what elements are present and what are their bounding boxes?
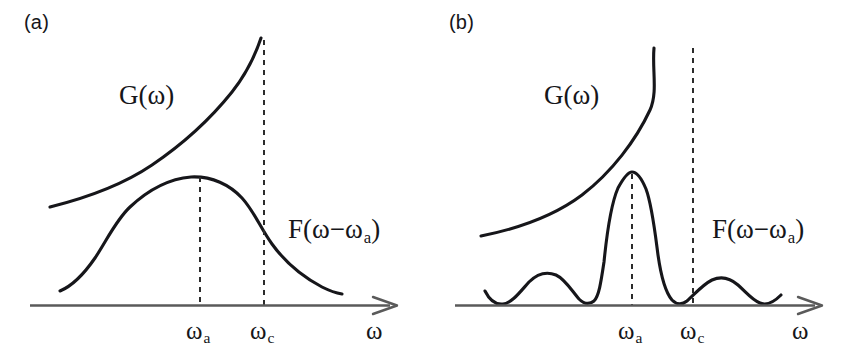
- panel-label-b: (b): [449, 12, 474, 32]
- tick-omega-subscript-a2: c: [266, 329, 274, 346]
- tick-omega-symbol-a2: ω: [250, 317, 266, 344]
- panel-label-a: (a): [24, 12, 49, 32]
- tick-omega-symbol-b1: ω: [618, 317, 634, 344]
- tick-omega-symbol-a1: ω: [186, 317, 202, 344]
- tick-label-omega-c-panel-b: ωc: [680, 318, 704, 346]
- curve-label-f-omega-panel-b: F(ω−ωa): [712, 216, 804, 246]
- figure-root: (a) G(ω) F(ω−ωa) ωa ωc ω (b) G(ω) F(ω−ωa…: [0, 0, 849, 358]
- panel-a: (a) G(ω) F(ω−ωa) ωa ωc ω: [0, 0, 425, 358]
- curve-g-omega-panel-a: [50, 38, 261, 207]
- axis-label-omega-panel-b: ω: [792, 318, 808, 343]
- axis-label-omega-panel-a: ω: [366, 318, 382, 343]
- tick-label-omega-c-panel-a: ωc: [250, 318, 274, 346]
- tick-omega-subscript-a1: a: [202, 329, 210, 346]
- curve-g-omega-panel-b: [481, 48, 654, 236]
- curve-label-g-omega-panel-a: G(ω): [119, 82, 174, 109]
- curve-label-f-omega-panel-a: F(ω−ωa): [288, 216, 380, 246]
- tick-omega-subscript-b2: c: [696, 329, 704, 346]
- f-label-close-a: ): [371, 214, 380, 244]
- f-label-subscript-b: a: [787, 228, 795, 247]
- tick-label-omega-a-panel-a: ωa: [186, 318, 210, 346]
- f-label-main-b: F(ω−ω: [712, 214, 787, 244]
- tick-omega-subscript-b1: a: [634, 329, 642, 346]
- panel-b-plot: [424, 0, 849, 358]
- f-label-close-b: ): [795, 214, 804, 244]
- tick-label-omega-a-panel-b: ωa: [618, 318, 642, 346]
- f-label-main-a: F(ω−ω: [288, 214, 363, 244]
- panel-a-plot: [0, 0, 425, 358]
- f-label-subscript-a: a: [363, 228, 371, 247]
- panel-b: (b) G(ω) F(ω−ωa) ωa ωc ω: [424, 0, 849, 358]
- tick-omega-symbol-b2: ω: [680, 317, 696, 344]
- curve-label-g-omega-panel-b: G(ω): [544, 82, 599, 109]
